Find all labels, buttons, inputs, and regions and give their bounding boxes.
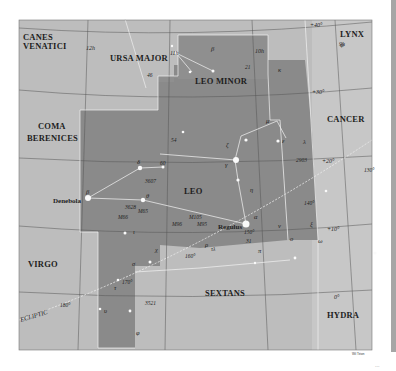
- dec-40: +40°: [310, 22, 323, 28]
- label-leo-zeta: ζ: [226, 141, 229, 149]
- label-leo-lambda: λ: [302, 138, 306, 145]
- label-leo-omega: ω: [318, 237, 323, 244]
- lynx-region: [312, 20, 372, 350]
- label-leo-tau-lambda: τλ: [211, 246, 216, 252]
- label-leo-chi: χ: [154, 246, 158, 253]
- dso-3628: 3628: [124, 204, 136, 210]
- page-edge-rule: [391, 0, 396, 352]
- label-leo-rho: ρ: [204, 241, 208, 248]
- dso-m95: M95: [196, 221, 207, 227]
- ra-10h: 10h: [255, 48, 264, 54]
- dso-m66: M66: [117, 214, 128, 220]
- dso-m96: M96: [171, 221, 182, 227]
- dso-3607: 3607: [144, 178, 156, 184]
- dso-m105: M105: [188, 214, 202, 220]
- ecl-150: 150°: [244, 229, 255, 235]
- label-hydra: HYDRA: [327, 310, 360, 320]
- label-ursa-major: URSA MAJOR: [110, 53, 169, 63]
- label-leo-60: 60: [160, 160, 166, 166]
- ecl-130: 130°: [364, 167, 375, 173]
- dec-20: +20°: [322, 158, 335, 164]
- ecl-160: 160°: [185, 253, 196, 259]
- label-leo-eta: η: [250, 186, 253, 193]
- label-canes-venatici-2: VENATICI: [23, 41, 67, 51]
- star-chart-map: CANES VENATICI URSA MAJOR LEO MINOR LYNX…: [0, 0, 396, 371]
- label-leo-54: 54: [171, 137, 177, 143]
- dso-2903: 2903: [296, 157, 307, 163]
- label-leo-phi: φ: [136, 329, 140, 336]
- label-leomin-46: 46: [147, 72, 153, 78]
- page-number: ...: [375, 362, 380, 368]
- ecl-140: 140°: [304, 200, 315, 206]
- label-leo: LEO: [184, 186, 203, 196]
- label-leo-gamma: γ: [225, 161, 228, 168]
- label-leo-upsilon: υ: [104, 307, 107, 314]
- label-leo-epsilon: ε: [282, 137, 285, 144]
- credit-text: Wil Tirion: [352, 352, 365, 356]
- label-leo-nu: ν: [278, 222, 281, 229]
- label-leo-alpha: α: [254, 213, 258, 220]
- dec-10: +10°: [327, 226, 340, 232]
- label-leo-31: 31: [245, 238, 252, 244]
- star-name-denebola: Denebola: [53, 197, 82, 205]
- dec-30: +30°: [312, 89, 325, 95]
- label-coma-1: COMA: [38, 121, 66, 131]
- label-virgo: VIRGO: [28, 259, 58, 269]
- dso-m65: M65: [137, 208, 148, 214]
- ecl-180: 180°: [60, 302, 71, 308]
- label-cancer: CANCER: [327, 114, 365, 124]
- ra-12h: 12h: [86, 45, 95, 51]
- label-leo-xi: ξ: [310, 220, 313, 228]
- ra-11h: 11h: [170, 50, 179, 56]
- label-leomin-21: 21: [245, 64, 251, 70]
- label-coma-2: BERENICES: [27, 133, 78, 143]
- dso-3521: 3521: [144, 300, 156, 306]
- star-name-regulus: Regulus: [218, 223, 242, 231]
- ecl-170: 170°: [122, 279, 133, 285]
- dec-0: 0°: [334, 294, 340, 300]
- label-leo-minor: LEO MINOR: [195, 76, 248, 86]
- label-leo-iota: ι: [133, 228, 135, 235]
- label-lynx: LYNX: [340, 29, 365, 39]
- label-sextans: SEXTANS: [205, 288, 245, 298]
